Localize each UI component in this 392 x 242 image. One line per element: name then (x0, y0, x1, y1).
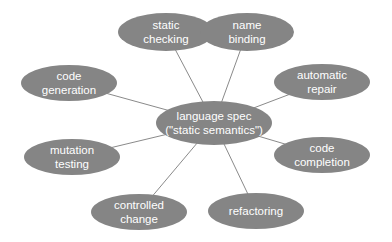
node-ellipse (156, 101, 272, 145)
node-label-line2: testing (55, 158, 89, 170)
node-mutation-testing: mutationtesting (24, 139, 120, 175)
nodes: staticcheckingnamebindingcodegenerationa… (21, 13, 370, 230)
node-label-line2: change (120, 213, 158, 225)
node-label-line2: generation (42, 84, 96, 96)
node-code-generation: codegeneration (21, 65, 117, 101)
node-label-line2: repair (307, 83, 337, 95)
node-refactoring: refactoring (208, 193, 304, 229)
node-label-line1: refactoring (229, 205, 283, 217)
node-code-completion: codecompletion (274, 137, 370, 173)
node-label-line1: mutation (50, 144, 94, 156)
node-label-line2: ("static semantics") (165, 124, 263, 136)
node-label-line1: name (233, 19, 262, 31)
node-label-line1: language spec (177, 110, 252, 122)
node-label-line1: static (153, 19, 180, 31)
center-node-language-spec: language spec("static semantics") (156, 101, 272, 145)
language-spec-diagram: staticcheckingnamebindingcodegenerationa… (0, 0, 392, 242)
node-label-line1: automatic (297, 69, 347, 81)
node-label-line2: binding (228, 33, 265, 45)
node-label-line1: controlled (114, 199, 164, 211)
node-name-binding: namebinding (200, 13, 294, 51)
node-automatic-repair: automaticrepair (274, 64, 370, 100)
node-static-checking: staticchecking (118, 13, 214, 51)
node-controlled-change: controlledchange (91, 194, 187, 230)
node-label-line2: completion (294, 156, 350, 168)
node-label-line1: code (310, 142, 335, 154)
node-label-line1: code (57, 70, 82, 82)
node-label-line2: checking (143, 33, 188, 45)
